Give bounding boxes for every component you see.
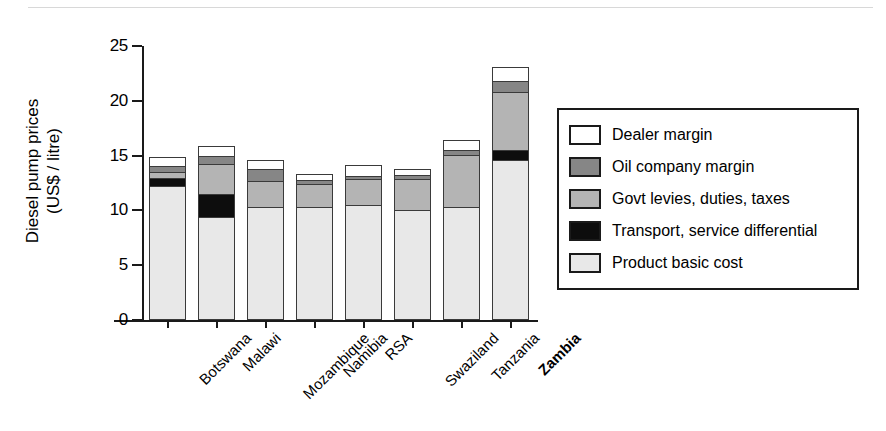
y-axis-tick-label: 20 <box>96 92 128 109</box>
y-axis-tick-label-text: 0 <box>102 311 128 328</box>
bar-segment-dealer[interactable] <box>492 67 529 81</box>
bar-segment-govt[interactable] <box>198 164 235 194</box>
bar-segment-govt[interactable] <box>296 184 333 207</box>
bar-segment-oil[interactable] <box>247 169 284 182</box>
y-axis-tick <box>132 319 142 321</box>
legend-label-product: Product basic cost <box>612 254 743 272</box>
bar-segment-transport[interactable] <box>492 150 529 160</box>
y-axis-tick <box>132 264 142 266</box>
chart-legend: Dealer marginOil company marginGovt levi… <box>557 108 859 290</box>
legend-item-dealer[interactable]: Dealer margin <box>569 119 847 151</box>
bar-segment-dealer[interactable] <box>345 165 382 176</box>
x-axis-label-swaziland: Swaziland <box>442 330 501 389</box>
y-axis-tick <box>132 209 142 211</box>
x-axis-line <box>114 320 538 322</box>
bar-rsa[interactable] <box>345 165 382 320</box>
bar-segment-govt[interactable] <box>492 92 529 150</box>
bar-botswana[interactable] <box>149 157 186 320</box>
bar-mozambique[interactable] <box>247 160 284 320</box>
legend-swatch-govt <box>569 189 601 209</box>
bar-segment-oil[interactable] <box>492 81 529 92</box>
bar-segment-transport[interactable] <box>149 178 186 186</box>
bar-segment-transport[interactable] <box>198 194 235 217</box>
y-axis-tick-label-text: 10 <box>102 201 128 218</box>
bar-zambia[interactable] <box>492 67 529 320</box>
x-axis-tick <box>216 321 218 328</box>
plot-area <box>143 46 535 320</box>
y-axis-tick-label: 5 <box>96 256 128 273</box>
y-axis-tick <box>132 100 142 102</box>
y-axis-tick-label: 15 <box>96 147 128 164</box>
x-axis-tick <box>461 321 463 328</box>
bar-segment-dealer[interactable] <box>443 140 480 150</box>
legend-label-transport: Transport, service differential <box>612 222 817 240</box>
x-axis-tick <box>510 321 512 328</box>
y-axis-tick-label-text: 15 <box>102 147 128 164</box>
bar-segment-product[interactable] <box>443 207 480 320</box>
legend-item-transport[interactable]: Transport, service differential <box>569 215 847 247</box>
bar-segment-govt[interactable] <box>394 179 431 210</box>
legend-label-dealer: Dealer margin <box>612 126 712 144</box>
bar-swaziland[interactable] <box>394 169 431 320</box>
scan-artifact-line <box>28 7 873 8</box>
bar-segment-govt[interactable] <box>443 155 480 207</box>
bar-segment-product[interactable] <box>394 210 431 320</box>
y-axis-tick <box>132 155 142 157</box>
bar-segment-product[interactable] <box>247 207 284 320</box>
bar-segment-product[interactable] <box>198 217 235 320</box>
bar-segment-product[interactable] <box>345 205 382 320</box>
bar-namibia[interactable] <box>296 174 333 320</box>
bar-segment-govt[interactable] <box>345 179 382 205</box>
legend-swatch-oil <box>569 157 601 177</box>
x-axis-label-rsa: RSA <box>382 330 414 362</box>
legend-item-oil[interactable]: Oil company margin <box>569 151 847 183</box>
y-axis-title-line2: (US$ / litre) <box>43 46 64 296</box>
legend-item-govt[interactable]: Govt levies, duties, taxes <box>569 183 847 215</box>
x-axis-tick <box>167 321 169 328</box>
bar-tanzania[interactable] <box>443 140 480 320</box>
y-axis-tick-label-text: 25 <box>102 37 128 54</box>
legend-item-product[interactable]: Product basic cost <box>569 247 847 279</box>
chart-figure: Diesel pump prices (US$ / litre) 0510152… <box>0 0 886 431</box>
x-axis-tick <box>363 321 365 328</box>
bar-segment-dealer[interactable] <box>247 160 284 169</box>
bar-segment-product[interactable] <box>296 207 333 320</box>
y-axis-tick-label: 25 <box>96 37 128 54</box>
y-axis-title: Diesel pump prices (US$ / litre) <box>22 46 64 296</box>
y-axis-tick-label: 10 <box>96 201 128 218</box>
legend-label-govt: Govt levies, duties, taxes <box>612 190 790 208</box>
bar-segment-govt[interactable] <box>247 181 284 206</box>
y-axis-tick-label: 0 <box>96 311 128 328</box>
x-axis-tick <box>412 321 414 328</box>
legend-swatch-transport <box>569 221 601 241</box>
x-axis-tick <box>265 321 267 328</box>
bar-segment-dealer[interactable] <box>149 157 186 166</box>
x-axis-tick <box>314 321 316 328</box>
bar-segment-dealer[interactable] <box>198 146 235 156</box>
bar-segment-oil[interactable] <box>198 156 235 165</box>
bar-segment-product[interactable] <box>492 160 529 320</box>
y-axis-tick-label-text: 20 <box>102 92 128 109</box>
legend-label-oil: Oil company margin <box>612 158 754 176</box>
y-axis-title-line1: Diesel pump prices <box>22 46 43 296</box>
bar-segment-product[interactable] <box>149 186 186 320</box>
bar-malawi[interactable] <box>198 146 235 320</box>
x-axis-label-zambia: Zambia <box>535 330 583 378</box>
y-axis-tick <box>132 45 142 47</box>
legend-swatch-dealer <box>569 125 601 145</box>
y-axis-tick-label-text: 5 <box>102 256 128 273</box>
legend-swatch-product <box>569 253 601 273</box>
